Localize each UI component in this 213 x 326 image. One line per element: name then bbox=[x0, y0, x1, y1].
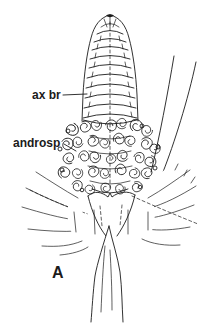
figure-panel: ax br androsp A bbox=[0, 0, 213, 326]
ax-br-label: ax br bbox=[32, 88, 61, 102]
androsp-leader-line bbox=[64, 144, 76, 151]
background-leaf-edges bbox=[151, 56, 196, 172]
cone-apex bbox=[82, 14, 138, 121]
botanical-illustration: ax br androsp A bbox=[0, 0, 213, 326]
panel-letter: A bbox=[52, 264, 64, 281]
androsp-label: androsp bbox=[13, 136, 60, 150]
annotation-ax-br: ax br bbox=[32, 88, 87, 102]
